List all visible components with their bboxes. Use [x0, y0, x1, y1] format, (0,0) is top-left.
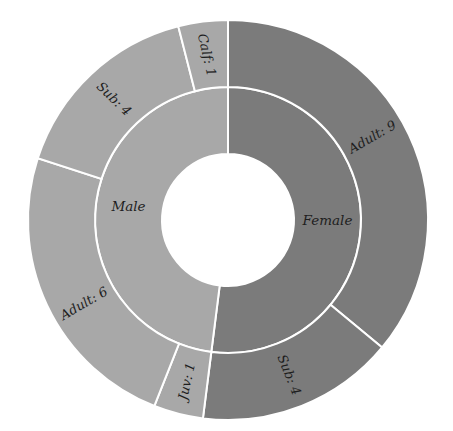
sunburst-chart: FemaleMaleAdult: 9Sub: 4Juv: 1Adult: 6Su… — [0, 0, 453, 431]
inner-label-male: Male — [110, 198, 145, 214]
outer-ring — [28, 20, 428, 420]
inner-label-female: Female — [302, 212, 353, 228]
